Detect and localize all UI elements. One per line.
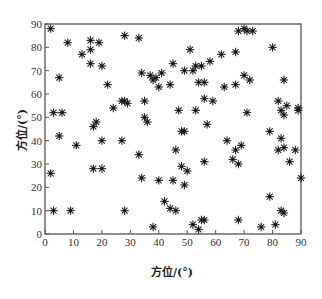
asterisk-marker (64, 38, 72, 46)
asterisk-marker (209, 97, 217, 105)
asterisk-marker (194, 225, 202, 233)
x-tick-label: 40 (153, 236, 165, 248)
y-tick-label: 90 (31, 18, 43, 30)
asterisk-marker (223, 136, 231, 144)
asterisk-marker (155, 83, 163, 91)
asterisk-marker (155, 176, 163, 184)
asterisk-marker (280, 209, 288, 217)
asterisk-marker (229, 155, 237, 163)
asterisk-marker (266, 127, 274, 135)
asterisk-marker (217, 50, 225, 58)
asterisk-marker (169, 59, 177, 67)
asterisk-marker (98, 136, 106, 144)
x-tick-label: 20 (96, 236, 108, 248)
asterisk-marker (55, 73, 63, 81)
asterisk-marker (180, 181, 188, 189)
asterisk-marker (72, 141, 80, 149)
y-tick-label: 0 (37, 228, 43, 240)
asterisk-marker (103, 80, 111, 88)
y-tick-label: 20 (31, 181, 43, 193)
asterisk-marker (183, 167, 191, 175)
asterisk-marker (280, 76, 288, 84)
asterisk-marker (46, 24, 54, 32)
asterisk-marker (280, 111, 288, 119)
asterisk-marker (274, 146, 282, 154)
asterisk-marker (138, 174, 146, 182)
y-tick-label: 10 (31, 205, 43, 217)
asterisk-marker (146, 71, 154, 79)
asterisk-marker (274, 97, 282, 105)
x-tick-label: 0 (42, 236, 48, 248)
x-axis-title: 方位/(°) (151, 265, 193, 279)
asterisk-marker (140, 97, 148, 105)
x-tick-label: 90 (296, 236, 308, 248)
asterisk-marker (177, 162, 185, 170)
asterisk-marker (118, 136, 126, 144)
asterisk-marker (89, 164, 97, 172)
asterisk-marker (86, 45, 94, 53)
asterisk-marker (200, 216, 208, 224)
y-tick-label: 70 (31, 65, 43, 77)
x-tick-label: 10 (68, 236, 80, 248)
asterisk-marker (95, 38, 103, 46)
asterisk-marker (109, 104, 117, 112)
asterisk-marker (237, 141, 245, 149)
y-tick-label: 60 (31, 88, 43, 100)
asterisk-marker (149, 223, 157, 231)
asterisk-marker (200, 94, 208, 102)
asterisk-marker (220, 83, 228, 91)
asterisk-marker (200, 157, 208, 165)
asterisk-marker (197, 62, 205, 70)
asterisk-marker (246, 76, 254, 84)
y-axis-title: 方位/(°) (15, 109, 29, 151)
y-tick-label: 40 (31, 135, 43, 147)
asterisk-marker (294, 106, 302, 114)
asterisk-marker (98, 164, 106, 172)
asterisk-marker (58, 108, 66, 116)
x-tick-label: 50 (182, 236, 194, 248)
data-points (46, 24, 305, 233)
asterisk-marker (66, 206, 74, 214)
scatter-chart: 01020304050607080900102030405060708090 方… (0, 0, 322, 299)
asterisk-marker (277, 134, 285, 142)
asterisk-marker (49, 108, 57, 116)
asterisk-marker (49, 206, 57, 214)
y-tick-label: 30 (31, 158, 43, 170)
asterisk-marker (285, 157, 293, 165)
x-tick-label: 80 (267, 236, 279, 248)
asterisk-marker (231, 48, 239, 56)
asterisk-marker (120, 31, 128, 39)
asterisk-marker (240, 71, 248, 79)
asterisk-marker (123, 99, 131, 107)
asterisk-marker (266, 192, 274, 200)
asterisk-marker (180, 66, 188, 74)
asterisk-marker (243, 108, 251, 116)
asterisk-marker (172, 146, 180, 154)
asterisk-marker (234, 160, 242, 168)
asterisk-marker (271, 220, 279, 228)
asterisk-marker (234, 216, 242, 224)
asterisk-marker (231, 146, 239, 154)
x-tick-label: 60 (210, 236, 222, 248)
asterisk-marker (268, 43, 276, 51)
asterisk-marker (297, 174, 305, 182)
asterisk-marker (180, 127, 188, 135)
asterisk-marker (172, 206, 180, 214)
asterisk-marker (192, 106, 200, 114)
asterisk-marker (78, 50, 86, 58)
x-tick-label: 30 (125, 236, 137, 248)
asterisk-marker (169, 176, 177, 184)
axis-ticks: 01020304050607080900102030405060708090 (31, 18, 307, 248)
asterisk-marker (135, 34, 143, 42)
asterisk-marker (189, 220, 197, 228)
asterisk-marker (186, 45, 194, 53)
asterisk-marker (248, 27, 256, 35)
asterisk-marker (120, 206, 128, 214)
y-tick-label: 50 (31, 111, 43, 123)
asterisk-marker (55, 132, 63, 140)
asterisk-marker (283, 101, 291, 109)
asterisk-marker (138, 69, 146, 77)
asterisk-marker (98, 62, 106, 70)
asterisk-marker (174, 106, 182, 114)
asterisk-marker (291, 146, 299, 154)
